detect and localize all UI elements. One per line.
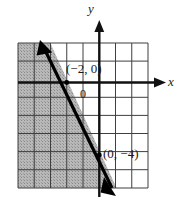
point-label-0-minus4: (0, −4) bbox=[103, 147, 139, 160]
y-axis-arrowhead bbox=[94, 20, 104, 32]
point-marker-minus2-0 bbox=[64, 80, 69, 85]
point-label-minus2-0: (−2, 0) bbox=[66, 62, 102, 75]
origin-label: 0 bbox=[80, 88, 86, 100]
graph-figure: y x 0 (−2, 0) (0, −4) bbox=[0, 0, 185, 209]
y-axis-label: y bbox=[88, 2, 94, 15]
x-axis-label: x bbox=[168, 75, 174, 88]
point-marker-0-minus4 bbox=[97, 153, 102, 158]
coordinate-plane-svg bbox=[0, 0, 185, 209]
x-axis-arrowhead bbox=[154, 78, 166, 88]
